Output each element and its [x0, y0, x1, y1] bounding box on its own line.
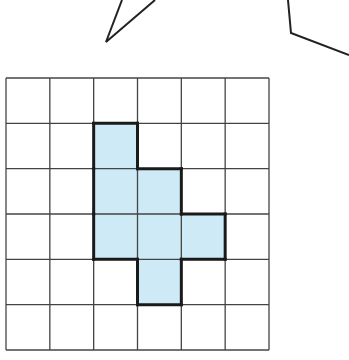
shaded-cell: [94, 123, 138, 168]
bent-line-shape: [288, 0, 349, 55]
shaded-cell: [181, 214, 225, 259]
shaded-cell: [94, 214, 138, 259]
shaded-cell: [94, 169, 138, 214]
shaded-cell: [138, 214, 182, 259]
angle-shape: [106, 0, 155, 42]
grid: [6, 78, 269, 350]
partial-shapes-above: [106, 0, 349, 55]
shaded-cell: [138, 169, 182, 214]
diagram-canvas: [0, 0, 349, 360]
shaded-cell: [138, 259, 182, 304]
